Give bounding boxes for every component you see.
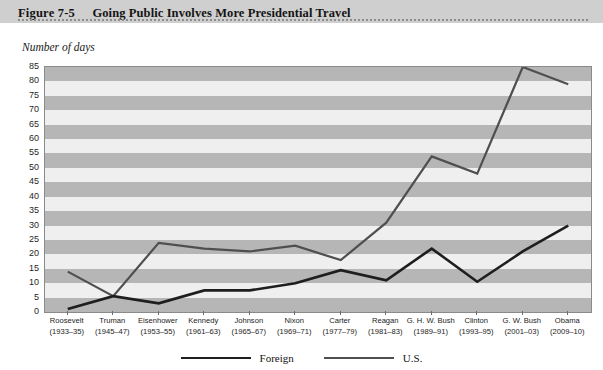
x-axis-tick-label: Roosevelt(1933–35) <box>49 316 84 337</box>
x-axis-tick-label: Clinton(1993–95) <box>459 316 494 337</box>
x-label-years: (1993–95) <box>459 327 494 338</box>
y-axis-tick-label: 50 <box>29 162 39 172</box>
x-label-years: (2009–10) <box>550 327 585 338</box>
x-axis-tick <box>203 311 204 315</box>
y-axis-tick-label: 70 <box>29 104 39 114</box>
x-axis-tick <box>385 311 386 315</box>
x-label-president: Roosevelt <box>49 316 84 327</box>
x-axis-tick <box>249 311 250 315</box>
x-axis-tick <box>294 311 295 315</box>
legend-item: Foreign <box>181 352 324 364</box>
x-axis-tick <box>476 311 477 315</box>
x-axis-tick-label: Obama(2009–10) <box>550 316 585 337</box>
x-label-years: (1965–67) <box>231 327 266 338</box>
chart-legend: ForeignU.S. <box>0 349 603 367</box>
x-label-president: Carter <box>322 316 357 327</box>
x-label-president: Clinton <box>459 316 494 327</box>
legend-line-swatch <box>181 357 251 360</box>
x-label-years: (1933–35) <box>49 327 84 338</box>
x-axis-labels: Roosevelt(1933–35)Truman(1945–47)Eisenho… <box>44 316 590 344</box>
x-axis-tick-label: Reagan(1981–83) <box>368 316 403 337</box>
y-axis-tick-label: 75 <box>29 90 39 100</box>
x-label-president: G. H. W. Bush <box>407 316 455 327</box>
chart-lines <box>45 67 591 312</box>
x-label-years: (1961–63) <box>186 327 221 338</box>
x-axis-tick-label: Carter(1977–79) <box>322 316 357 337</box>
y-axis-tick-label: 65 <box>29 119 39 129</box>
x-label-years: (2001–03) <box>503 327 541 338</box>
y-axis-tick-label: 55 <box>29 147 39 157</box>
legend-label: Foreign <box>260 352 294 364</box>
y-axis: 8580757065605550454035302520151050 <box>0 60 44 318</box>
y-axis-tick-label: 40 <box>29 191 39 201</box>
y-axis-tick-label: 30 <box>29 220 39 230</box>
x-axis-tick-label: Eisenhower(1953–55) <box>138 316 178 337</box>
figure-title: Going Public Involves More Presidential … <box>92 6 350 20</box>
dotted-divider <box>18 19 590 21</box>
x-axis-tick-label: Nixon(1969–71) <box>277 316 312 337</box>
x-label-president: Eisenhower <box>138 316 178 327</box>
y-axis-tick-label: 0 <box>34 306 39 316</box>
x-axis-tick <box>67 311 68 315</box>
x-label-years: (1989–91) <box>407 327 455 338</box>
x-label-president: Reagan <box>368 316 403 327</box>
x-label-years: (1969–71) <box>277 327 312 338</box>
y-axis-tick-label: 15 <box>29 263 39 273</box>
x-label-years: (1953–55) <box>138 327 178 338</box>
y-axis-tick-label: 45 <box>29 176 39 186</box>
x-axis-tick <box>340 311 341 315</box>
x-label-president: Kennedy <box>186 316 221 327</box>
x-label-years: (1945–47) <box>95 327 130 338</box>
x-label-years: (1977–79) <box>322 327 357 338</box>
y-axis-tick-label: 20 <box>29 248 39 258</box>
x-label-president: G. W. Bush <box>503 316 541 327</box>
x-label-president: Truman <box>95 316 130 327</box>
x-axis-tick <box>158 311 159 315</box>
x-axis-tick-label: Kennedy(1961–63) <box>186 316 221 337</box>
x-label-years: (1981–83) <box>368 327 403 338</box>
y-axis-tick-label: 85 <box>29 61 39 71</box>
x-axis-tick <box>567 311 568 315</box>
y-axis-tick-label: 80 <box>29 75 39 85</box>
y-axis-tick-label: 10 <box>29 277 39 287</box>
x-label-president: Johnson <box>231 316 266 327</box>
y-axis-tick-label: 35 <box>29 205 39 215</box>
series-line-us <box>68 67 569 296</box>
x-axis-tick <box>431 311 432 315</box>
legend-item: U.S. <box>324 352 423 364</box>
plot-area <box>44 66 592 313</box>
x-axis-tick-label: G. H. W. Bush(1989–91) <box>407 316 455 337</box>
y-axis-tick-label: 60 <box>29 133 39 143</box>
x-axis-tick <box>522 311 523 315</box>
x-label-president: Nixon <box>277 316 312 327</box>
y-axis-title: Number of days <box>22 41 95 53</box>
x-axis-tick <box>112 311 113 315</box>
y-axis-tick-label: 5 <box>34 292 39 302</box>
x-axis-tick-label: Johnson(1965–67) <box>231 316 266 337</box>
x-axis-tick-label: G. W. Bush(2001–03) <box>503 316 541 337</box>
x-axis-tick-label: Truman(1945–47) <box>95 316 130 337</box>
series-line-foreign <box>68 226 569 310</box>
x-label-president: Obama <box>550 316 585 327</box>
legend-line-swatch <box>324 357 394 360</box>
y-axis-tick-label: 25 <box>29 234 39 244</box>
figure-title-banner: Figure 7-5 Going Public Involves More Pr… <box>0 0 603 23</box>
legend-label: U.S. <box>403 352 423 364</box>
figure-number: Figure 7-5 <box>18 6 75 20</box>
